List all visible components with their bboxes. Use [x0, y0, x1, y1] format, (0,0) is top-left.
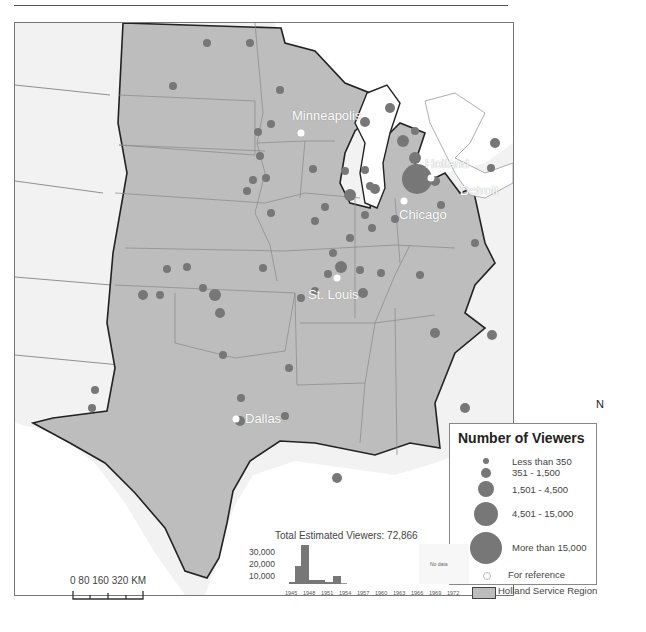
- legend-item-4501-15000: 4,501 - 15,000: [450, 502, 596, 522]
- x-tick: 1963: [393, 590, 405, 596]
- y-tick: 10,000: [249, 571, 275, 581]
- city-label-dallas: Dallas: [245, 411, 281, 426]
- scale-bar-ruler: [72, 589, 152, 603]
- x-tick: 1972: [447, 590, 459, 596]
- legend-reference-label: For reference: [508, 569, 565, 580]
- x-tick: 1960: [375, 590, 387, 596]
- x-tick: 1957: [357, 590, 369, 596]
- city-label-holland: Holland: [425, 156, 469, 171]
- viewers-histogram: Total Estimated Viewers: 72,866 30,000 2…: [265, 530, 473, 600]
- x-tick: 1969: [429, 590, 441, 596]
- x-tick: 1966: [411, 590, 423, 596]
- top-rule: [14, 5, 508, 6]
- legend-item-1501-4500: 1,501 - 4,500: [450, 481, 596, 501]
- legend-region-label: Holland Service Region: [498, 585, 597, 596]
- x-tick: 1945: [285, 590, 297, 596]
- circle-icon-xs: [483, 458, 489, 464]
- map-frame: Minneapolis Holland Detroit Chicago St. …: [14, 22, 514, 596]
- y-tick: 20,000: [249, 559, 275, 569]
- city-label-chicago: Chicago: [399, 207, 447, 222]
- circle-icon-s: [481, 468, 491, 478]
- histogram-bars: [289, 542, 489, 587]
- x-tick: 1951: [321, 590, 333, 596]
- circle-icon-l: [474, 502, 498, 526]
- north-arrow-label: N: [596, 398, 604, 410]
- map-canvas: [15, 23, 513, 595]
- city-label-detroit: Detroit: [460, 183, 498, 198]
- city-label-minneapolis: Minneapolis: [292, 108, 361, 123]
- no-data-label: No data: [430, 561, 448, 567]
- legend-title: Number of Viewers: [458, 430, 585, 446]
- x-tick: 1948: [303, 590, 315, 596]
- scale-bar-label: 0 80 160 320 KM: [70, 575, 146, 586]
- circle-icon-m: [478, 481, 494, 497]
- x-tick: 1954: [339, 590, 351, 596]
- y-tick: 30,000: [249, 547, 275, 557]
- histogram-title: Total Estimated Viewers: 72,866: [275, 530, 418, 541]
- city-label-st-louis: St. Louis: [308, 287, 359, 302]
- region-swatch-icon: [472, 587, 496, 599]
